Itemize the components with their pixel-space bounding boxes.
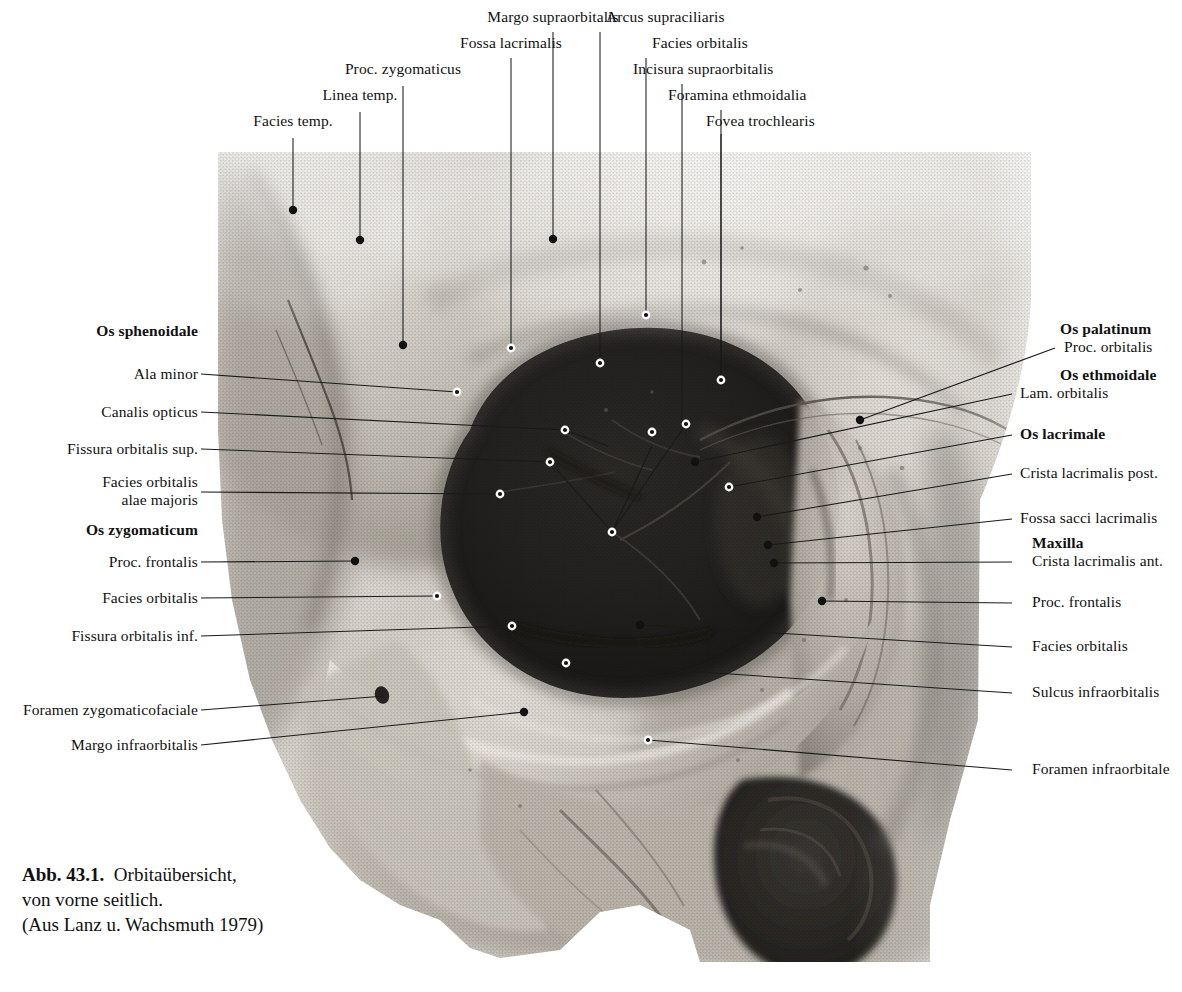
marker-lam-orbitalis	[691, 458, 699, 466]
label-incisura-supraorbitalis: Incisura supraorbitalis	[633, 60, 773, 78]
label-ala-minor: Ala minor	[134, 365, 198, 383]
label-arcus-supraciliaris: Arcus supraciliaris	[606, 8, 725, 26]
label-facies-orbitalis-zyg: Facies orbitalis	[102, 589, 198, 607]
label-os-zygomaticum: Os zygomaticum	[86, 521, 198, 539]
label-proc-frontalis-max: Proc. frontalis	[1032, 593, 1121, 611]
marker-facies-temp	[289, 206, 297, 214]
marker-proc-zygomaticus	[399, 341, 407, 349]
label-crista-lacrimalis-ant: Crista lacrimalis ant.	[1032, 552, 1163, 570]
label-foramen-infraorbitale: Foramen infraorbitale	[1032, 760, 1170, 778]
caption-line-3: (Aus Lanz u. Wachsmuth 1979)	[22, 914, 263, 935]
skull-photograph	[180, 70, 1110, 990]
label-fissura-orbitalis-sup: Fissura orbitalis sup.	[67, 440, 198, 458]
label-os-sphenoidale: Os sphenoidale	[96, 322, 198, 340]
figure-number: Abb. 43.1.	[22, 864, 104, 885]
label-proc-zygomaticus: Proc. zygomaticus	[345, 60, 461, 78]
label-linea-temp: Linea temp.	[322, 86, 397, 104]
label-margo-supraorbitalis: Margo supraorbitalis	[487, 8, 618, 26]
label-facies-orbitalis-alae-majoris-l1: Facies orbitalis	[102, 473, 198, 491]
label-fissura-orbitalis-inf: Fissura orbitalis inf.	[71, 627, 198, 645]
label-facies-orbitalis-top: Facies orbitalis	[652, 34, 748, 52]
label-os-lacrimale: Os lacrimale	[1020, 425, 1105, 443]
marker-fossa-sacci-lacrimalis	[764, 541, 772, 549]
marker-margo-infraorbitalis	[520, 708, 528, 716]
caption-line-2: von vorne seitlich.	[22, 889, 163, 910]
label-maxilla: Maxilla	[1032, 534, 1084, 552]
label-margo-infraorbitalis: Margo infraorbitalis	[71, 736, 198, 754]
anatomical-figure: Facies temp. Linea temp. Proc. zygomatic…	[0, 0, 1182, 992]
label-crista-lacrimalis-post: Crista lacrimalis post.	[1020, 464, 1158, 482]
label-sulcus-infraorbitalis: Sulcus infraorbitalis	[1032, 683, 1159, 701]
label-foramen-zygomaticofaciale: Foramen zygomaticofaciale	[23, 701, 198, 719]
label-lam-orbitalis: Lam. orbitalis	[1020, 384, 1108, 402]
label-fovea-trochlearis: Fovea trochlearis	[706, 112, 815, 130]
marker-margo-supraorbitalis	[549, 235, 557, 243]
label-os-palatinum: Os palatinum	[1060, 320, 1151, 338]
label-foramina-ethmoidalia: Foramina ethmoidalia	[668, 86, 806, 104]
label-os-ethmoidale: Os ethmoidale	[1060, 366, 1156, 384]
label-facies-orbitalis-max: Facies orbitalis	[1032, 637, 1128, 655]
caption-line-1: Orbitaübersicht,	[114, 864, 237, 885]
label-fossa-sacci-lacrimalis: Fossa sacci lacrimalis	[1020, 509, 1157, 527]
label-proc-frontalis-zyg: Proc. frontalis	[109, 553, 198, 571]
marker-crista-lacrimalis-ant	[770, 559, 778, 567]
label-facies-orbitalis-alae-majoris-l2: alae majoris	[121, 491, 198, 509]
label-proc-orbitalis: Proc. orbitalis	[1064, 338, 1152, 356]
marker-proc-orbitalis	[856, 416, 864, 424]
marker-linea-temp	[356, 236, 364, 244]
label-canalis-opticus: Canalis opticus	[101, 403, 198, 421]
marker-facies-orbitalis-max	[636, 621, 644, 629]
figure-caption: Abb. 43.1. Orbitaübersicht,von vorne sei…	[22, 862, 263, 937]
marker-proc-frontalis-max	[818, 597, 826, 605]
label-facies-temp: Facies temp.	[253, 112, 333, 130]
marker-proc-frontalis-zyg	[351, 557, 359, 565]
label-fossa-lacrimalis: Fossa lacrimalis	[460, 34, 562, 52]
marker-crista-lacrimalis-post	[753, 513, 761, 521]
